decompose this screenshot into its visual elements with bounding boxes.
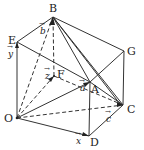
vector-label-c: c [106,115,111,124]
point-label-O: O [4,113,13,124]
vector-label-x: x [76,137,81,146]
edge-GC [123,51,124,105]
edge-BC2 [53,17,120,104]
vector-label-a: a [80,84,85,93]
point-label-B: B [49,3,57,14]
point-F [53,75,55,77]
edge-AG [90,51,124,82]
point-label-F: F [57,69,65,80]
edge-EB [17,17,53,42]
arrow-head-x [82,132,89,136]
point-label-G: G [127,46,136,57]
point-label-D: D [90,137,99,148]
vector-label-z: z [45,72,50,81]
edge-OF [17,76,54,118]
vector-label-b: b [40,27,46,36]
point-label-C: C [127,104,135,115]
vector-label-y: y [8,50,13,59]
point-O [16,117,19,120]
edge-BG [53,17,124,51]
edge-FB [53,17,54,76]
point-label-A: A [91,84,99,95]
parallelepiped-diagram [0,0,144,150]
